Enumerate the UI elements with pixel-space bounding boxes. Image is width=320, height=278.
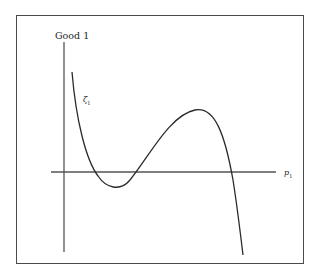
excess-demand-plot — [0, 0, 320, 278]
y-axis-label: Good 1 — [55, 31, 89, 41]
x-axis-label: p1 — [284, 169, 292, 179]
excess-demand-curve — [72, 72, 243, 255]
curve-label: ζ1 — [83, 96, 91, 106]
